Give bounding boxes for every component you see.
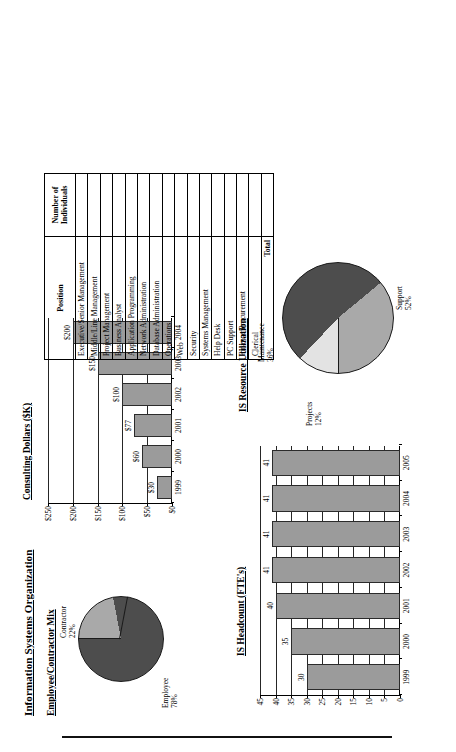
x-axis-tick-label: 2002 <box>402 563 411 578</box>
table-cell-count[interactable] <box>162 174 174 237</box>
x-axis-tick-label: 2002 <box>174 387 183 402</box>
table-row: Application Programming <box>125 174 137 360</box>
table-row: Business Analyst <box>113 174 125 360</box>
pie-label-projects-value: 12% <box>314 412 323 426</box>
table-cell-position: Executive/Senior Management <box>76 237 88 360</box>
bar <box>142 445 172 467</box>
y-axis-tick-label: 5 <box>380 698 389 702</box>
bar <box>272 557 400 583</box>
scanned-page: Information Systems Organization Employe… <box>0 0 456 752</box>
panel-title-is-headcount: IS Headcount (FTE's) <box>236 567 246 656</box>
x-axis-tick-label: 2000 <box>402 634 411 649</box>
headcount-plot-area: 0510152025303540453019993520004020014120… <box>260 446 400 696</box>
y-axis-tick-label: 45 <box>256 698 265 706</box>
table-cell-position: Systems Management <box>199 237 211 360</box>
table-cell-count[interactable] <box>212 174 224 237</box>
bar-data-label: 30 <box>297 673 306 681</box>
x-axis-tick-label: 1999 <box>402 670 411 685</box>
y-axis-tick-label: 20 <box>333 698 342 706</box>
bar-data-label: $30 <box>147 482 156 493</box>
pie-employee-contractor <box>78 596 164 682</box>
pie-label-projects: Projects 12% <box>306 372 323 426</box>
table-cell-count[interactable] <box>150 174 162 237</box>
table-cell-position: Network Administration <box>137 237 149 360</box>
table-cell-total-count[interactable] <box>261 174 273 237</box>
table-row: Project Management <box>100 174 112 360</box>
y-axis-tick-label: 35 <box>287 698 296 706</box>
bar <box>122 383 172 405</box>
table-cell-count[interactable] <box>113 174 125 237</box>
table-cell-count[interactable] <box>237 174 249 237</box>
x-tick-mark <box>399 480 402 481</box>
table-row: Network Administration <box>137 174 149 360</box>
table-row: Web <box>175 174 187 360</box>
y-axis-tick-label: 25 <box>318 698 327 706</box>
bar <box>291 628 400 654</box>
page-edge-line <box>62 736 392 738</box>
bar <box>272 521 400 547</box>
x-tick-mark <box>399 444 402 445</box>
column-header-number-of-individuals: Number of Individuals <box>45 174 76 237</box>
x-tick-mark <box>399 515 402 516</box>
y-axis-tick-label: 10 <box>364 698 373 706</box>
table-row: PC Support <box>224 174 236 360</box>
table-cell-count[interactable] <box>76 174 88 237</box>
bar-data-label: 41 <box>262 531 271 539</box>
pie-label-employee-value: 78% <box>170 694 179 708</box>
bar-data-label: 40 <box>266 602 275 610</box>
table-cell-count[interactable] <box>125 174 137 237</box>
x-tick-mark <box>399 551 402 552</box>
table-cell-position: Finance/Procurement <box>237 237 249 360</box>
bar <box>307 664 400 690</box>
staffing-table: Position Number of Individuals Executive… <box>44 173 274 360</box>
table-cell-count[interactable] <box>175 174 187 237</box>
table-cell-count[interactable] <box>187 174 199 237</box>
column-header-position: Position <box>45 237 76 360</box>
bar <box>134 414 172 436</box>
table-cell-count[interactable] <box>137 174 149 237</box>
page-frame: Information Systems Organization Employe… <box>0 0 456 752</box>
table-cell-position: Business Analyst <box>113 237 125 360</box>
y-axis-tick-label: 40 <box>271 698 280 706</box>
table-cell-total-label: Total <box>261 237 273 360</box>
x-axis-tick-label: 2003 <box>402 527 411 542</box>
bar-data-label: $100 <box>112 387 121 402</box>
y-axis-tick-label: $100 <box>118 506 127 521</box>
x-axis-tick-label: 2001 <box>174 418 183 433</box>
y-axis-tick-label: $0 <box>168 506 177 514</box>
table-row: Database Administration <box>150 174 162 360</box>
x-tick-mark <box>399 694 402 695</box>
table-cell-position: Application Programming <box>125 237 137 360</box>
y-axis-tick-label: $200 <box>68 506 77 521</box>
table-row: Systems Management <box>199 174 211 360</box>
y-axis-tick-label: $250 <box>44 506 53 521</box>
gridline <box>260 446 261 695</box>
bar-data-label: $60 <box>132 451 141 462</box>
table-cell-count[interactable] <box>199 174 211 237</box>
table-row-total: Total <box>261 174 273 360</box>
x-axis-tick-label: 2005 <box>402 455 411 470</box>
bar <box>272 450 400 476</box>
table-row: Security <box>187 174 199 360</box>
table-header-row: Position Number of Individuals <box>45 174 76 360</box>
table-row: Clerical <box>249 174 261 360</box>
table-row: Help Desk <box>212 174 224 360</box>
pie-label-contractor: Contractor 22% <box>60 578 77 638</box>
table-cell-count[interactable] <box>224 174 236 237</box>
bar <box>276 593 400 619</box>
pie-label-contractor-value: 22% <box>68 624 77 638</box>
bar <box>157 476 172 498</box>
table-cell-count[interactable] <box>100 174 112 237</box>
pie-label-support-value: 52% <box>404 296 413 310</box>
table-cell-count[interactable] <box>249 174 261 237</box>
y-axis-tick-label: 0 <box>396 698 405 702</box>
x-axis-tick-label: 2004 <box>402 491 411 506</box>
x-tick-mark <box>171 471 174 472</box>
page-title: Information Systems Organization <box>22 550 34 716</box>
x-axis-tick-label: 2000 <box>174 449 183 464</box>
table-cell-position: Help Desk <box>212 237 224 360</box>
x-axis-tick-label: 2001 <box>402 598 411 613</box>
table-cell-count[interactable] <box>88 174 100 237</box>
bar-data-label: 35 <box>281 638 290 646</box>
y-axis-tick-label: 30 <box>302 698 311 706</box>
